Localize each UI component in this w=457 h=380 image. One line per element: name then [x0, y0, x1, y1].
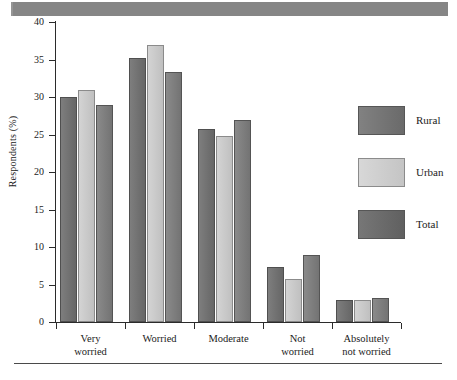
- plot-area: [56, 22, 401, 322]
- x-tick: [401, 323, 402, 329]
- x-category-label: Absolutelynot worried: [312, 332, 422, 358]
- y-tick-label: 10: [34, 240, 44, 253]
- x-tick: [56, 323, 57, 329]
- bar-urban: [354, 300, 371, 322]
- bar-urban: [216, 136, 233, 322]
- y-tick-label: 15: [34, 203, 44, 216]
- x-tick: [332, 323, 333, 329]
- x-category-label-line: not worried: [312, 345, 422, 358]
- y-tick: 40: [49, 22, 56, 23]
- y-tick: 30: [49, 97, 56, 98]
- legend-item-total: Total: [358, 204, 454, 244]
- legend-item-rural: Rural: [358, 100, 454, 140]
- x-tick: [263, 323, 264, 329]
- bar-total: [96, 105, 113, 323]
- y-tick-label: 35: [34, 53, 44, 66]
- y-tick: 25: [49, 135, 56, 136]
- y-tick: 10: [49, 247, 56, 248]
- y-tick: 35: [49, 60, 56, 61]
- x-tick: [194, 323, 195, 329]
- scan-banner: [11, 2, 448, 16]
- y-tick-label: 20: [34, 165, 44, 178]
- bar-rural: [198, 129, 215, 323]
- y-tick: 0: [49, 322, 56, 323]
- y-tick: 20: [49, 172, 56, 173]
- bar-urban: [285, 279, 302, 322]
- y-axis-title: Respondents (%): [7, 72, 18, 232]
- legend-item-urban: Urban: [358, 152, 454, 192]
- bar-urban: [147, 45, 164, 323]
- legend-label-total: Total: [416, 218, 438, 230]
- bar-total: [303, 255, 320, 323]
- footer-rule: [14, 363, 442, 364]
- x-axis-line: [55, 322, 401, 323]
- bar-total: [372, 298, 389, 322]
- x-category-label-line: worried: [36, 345, 146, 358]
- chart-legend: RuralUrbanTotal: [358, 100, 454, 256]
- legend-swatch-total: [358, 210, 405, 239]
- bar-total: [234, 120, 251, 323]
- y-tick-label: 40: [34, 15, 44, 28]
- bar-urban: [78, 90, 95, 323]
- legend-swatch-urban: [358, 158, 405, 187]
- x-tick: [125, 323, 126, 329]
- x-category-label-line: Absolutely: [312, 332, 422, 345]
- legend-label-rural: Rural: [416, 114, 440, 126]
- bar-group: [129, 22, 182, 322]
- bar-group: [60, 22, 113, 322]
- legend-label-urban: Urban: [416, 166, 444, 178]
- y-tick-label: 30: [34, 90, 44, 103]
- bar-total: [165, 72, 182, 323]
- bar-rural: [336, 300, 353, 323]
- y-tick-label: 25: [34, 128, 44, 141]
- legend-swatch-rural: [358, 106, 405, 135]
- y-tick: 15: [49, 210, 56, 211]
- bar-group: [198, 22, 251, 322]
- y-tick-label: 5: [39, 278, 44, 291]
- bar-rural: [129, 58, 146, 322]
- bar-chart-figure: Respondents (%) 0510152025303540 Verywor…: [0, 18, 457, 360]
- y-tick: 5: [49, 285, 56, 286]
- y-tick-label: 0: [39, 315, 44, 328]
- bar-rural: [60, 97, 77, 322]
- bar-group: [267, 22, 320, 322]
- bar-rural: [267, 267, 284, 322]
